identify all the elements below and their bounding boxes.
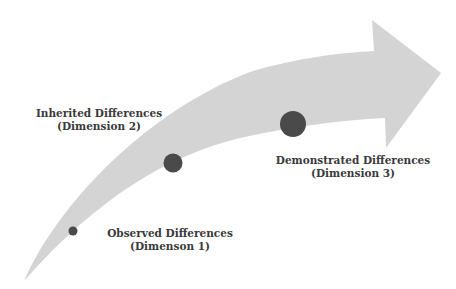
stage-3-subtitle: (Dimension 3) — [268, 167, 438, 180]
stage-2-title: Inherited Differences — [24, 107, 174, 120]
stage-2-label: Inherited Differences (Dimension 2) — [24, 107, 174, 133]
diagram-canvas: Inherited Differences (Dimension 2) Demo… — [0, 0, 456, 289]
stage-3-title: Demonstrated Differences — [268, 154, 438, 167]
stage-1-subtitle: (Dimenson 1) — [105, 240, 235, 253]
stage-2-subtitle: (Dimension 2) — [24, 120, 174, 133]
stage-3-dot — [280, 111, 306, 137]
stage-1-title: Observed Differences — [105, 227, 235, 240]
stage-2-dot — [164, 154, 183, 173]
stage-3-label: Demonstrated Differences (Dimension 3) — [268, 154, 438, 180]
stage-1-dot — [69, 227, 78, 236]
stage-1-label: Observed Differences (Dimenson 1) — [105, 227, 235, 253]
